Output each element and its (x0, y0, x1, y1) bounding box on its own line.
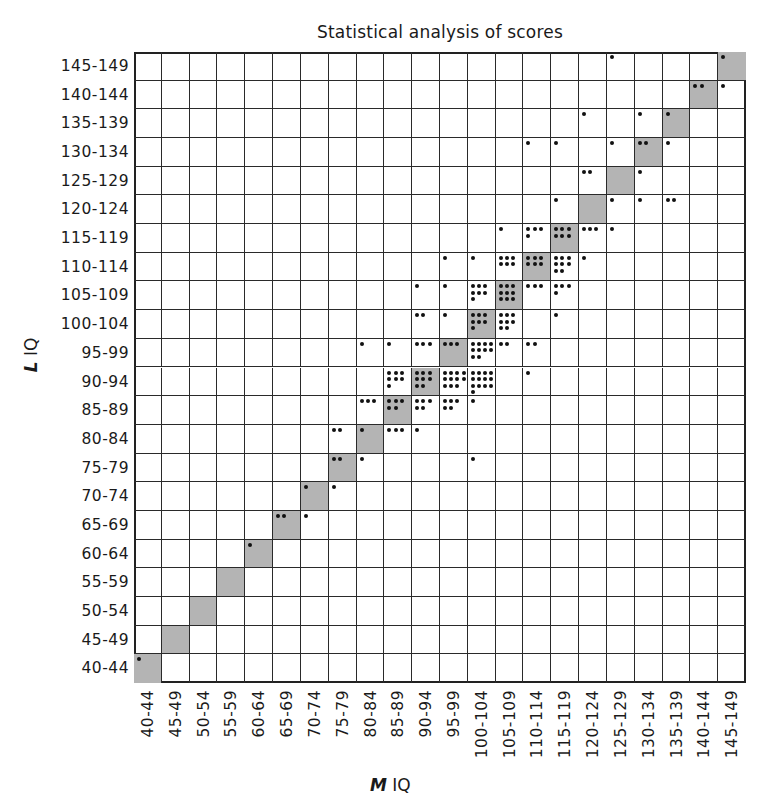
grid-cell (329, 626, 357, 655)
data-point (332, 485, 336, 489)
data-point (477, 284, 481, 288)
data-point (421, 342, 425, 346)
data-point (282, 514, 286, 518)
grid-cell (162, 195, 190, 224)
grid-cell (217, 253, 245, 282)
x-tick-label: 115-119 (551, 690, 579, 770)
chart-title: Statistical analysis of scores (134, 22, 746, 42)
grid-cell (718, 109, 746, 138)
data-point (554, 262, 558, 266)
grid-cell (162, 454, 190, 483)
grid-cell (663, 597, 691, 626)
grid-cell (579, 425, 607, 454)
y-tick-label: 75-79 (0, 454, 129, 482)
grid-cell (607, 540, 635, 569)
grid-cell (190, 396, 218, 425)
grid-cell (301, 138, 329, 167)
grid-cell (217, 52, 245, 81)
data-point (560, 256, 564, 260)
grid-cell (663, 454, 691, 483)
grid-cell (635, 281, 663, 310)
data-point (588, 227, 592, 231)
data-point (443, 371, 447, 375)
grid-cell (357, 368, 385, 397)
data-point (533, 227, 537, 231)
grid-cell (273, 195, 301, 224)
grid-cell (718, 253, 746, 282)
grid-cell (357, 339, 385, 368)
data-point (387, 377, 391, 381)
grid-cell (412, 195, 440, 224)
grid-cell (496, 425, 524, 454)
data-point (421, 384, 425, 388)
grid-cell (579, 454, 607, 483)
grid-cell (663, 511, 691, 540)
grid-cell (384, 224, 412, 253)
grid-cell (357, 224, 385, 253)
data-point (471, 297, 475, 301)
x-tick-label: 100-104 (468, 690, 496, 770)
data-point (471, 313, 475, 317)
data-point (526, 262, 530, 266)
grid-cell (523, 511, 551, 540)
data-point (415, 384, 419, 388)
data-point (567, 234, 571, 238)
grid-cell (162, 511, 190, 540)
grid-cell (607, 368, 635, 397)
data-point (554, 269, 558, 273)
grid-cell (690, 482, 718, 511)
data-point (400, 399, 404, 403)
grid-cell (162, 253, 190, 282)
grid-cell (523, 310, 551, 339)
grid-cell (468, 597, 496, 626)
grid-cell (468, 511, 496, 540)
grid-cell (162, 167, 190, 196)
data-point (471, 355, 475, 359)
grid-cell (329, 167, 357, 196)
grid-cell (635, 597, 663, 626)
grid-cell (496, 396, 524, 425)
grid-cell (134, 425, 162, 454)
grid-cell (690, 224, 718, 253)
grid-cell (496, 597, 524, 626)
grid-cell (551, 109, 579, 138)
grid-cell (718, 138, 746, 167)
x-tick-label: 75-79 (329, 690, 357, 770)
grid-cell (690, 167, 718, 196)
data-point (526, 371, 530, 375)
data-point (489, 377, 493, 381)
grid-cell (217, 597, 245, 626)
grid-cell (245, 52, 273, 81)
grid-cell (690, 253, 718, 282)
grid-cell (663, 396, 691, 425)
grid-cell (134, 167, 162, 196)
grid-cell (496, 568, 524, 597)
grid-cell (523, 482, 551, 511)
grid-cell (579, 568, 607, 597)
data-point (449, 377, 453, 381)
grid-cell (523, 52, 551, 81)
plot-grid (134, 52, 746, 683)
y-tick-label: 105-109 (0, 281, 129, 309)
data-point (455, 399, 459, 403)
grid-cell (190, 368, 218, 397)
y-tick-label: 145-149 (0, 52, 129, 80)
grid-cell (718, 425, 746, 454)
grid-cell (440, 138, 468, 167)
data-point (477, 355, 481, 359)
data-point (443, 342, 447, 346)
grid-cell (718, 482, 746, 511)
data-point (499, 227, 503, 231)
grid-cell (690, 597, 718, 626)
grid-cell (190, 224, 218, 253)
grid-cell (663, 368, 691, 397)
grid-cell (412, 368, 440, 397)
grid-cell (357, 195, 385, 224)
data-point (394, 406, 398, 410)
data-point (483, 313, 487, 317)
data-point (526, 256, 530, 260)
grid-cell (690, 138, 718, 167)
grid-cell (579, 52, 607, 81)
grid-cell (412, 626, 440, 655)
grid-cell (607, 310, 635, 339)
